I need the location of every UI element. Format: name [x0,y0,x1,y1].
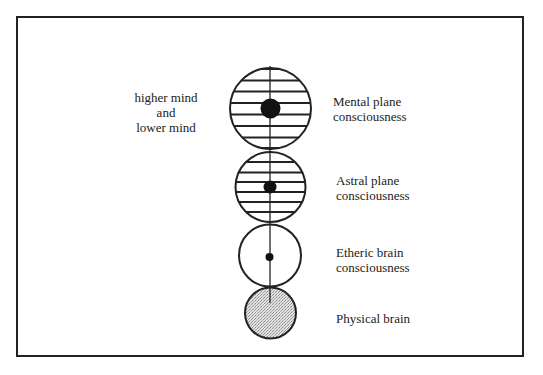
etheric-core-dot [266,253,274,261]
astral-plane-label: Astral plane consciousness [336,173,410,203]
label-line: Mental plane [333,94,407,109]
mental-core-dot [261,99,281,119]
label-line: Etheric brain [336,245,410,260]
label-line: consciousness [336,260,410,275]
label-line: Astral plane [336,173,410,188]
physical-brain-label: Physical brain [336,311,410,326]
etheric-brain-label: Etheric brain consciousness [336,245,410,275]
annotation-line: and [118,105,214,120]
annotation-line: lower mind [118,120,214,135]
mental-plane-label: Mental plane consciousness [333,94,407,124]
label-line: consciousness [336,188,410,203]
label-line: Physical brain [336,311,410,326]
annotation-line: higher mind [118,90,214,105]
consciousness-diagram [0,0,543,375]
astral-core-dot [264,181,277,194]
label-line: consciousness [333,109,407,124]
higher-lower-mind-annotation: higher mind and lower mind [118,90,214,135]
